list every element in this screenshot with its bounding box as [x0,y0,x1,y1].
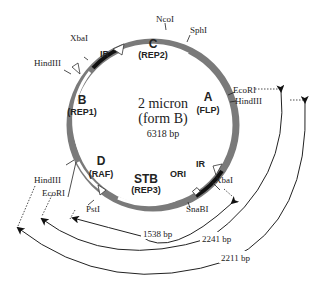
site-snabi: SnaBI [186,204,209,214]
ir-top-label: IR [100,49,110,59]
gene-c-label: C [149,37,158,51]
ir-right-label: IR [196,159,206,169]
gene-d-name: (RAF) [89,169,114,179]
gene-d-label: D [97,154,106,168]
plasmid-form: (form B) [138,111,188,127]
stb-label: STB [134,172,158,186]
stb-name: (REP3) [131,185,161,195]
site-ncoi: NcoI [156,14,174,24]
gene-b-arrowhead [72,63,80,74]
fragment-label-2241: 2241 bp [202,234,232,244]
site-xbai-top: XbaI [70,33,88,43]
gene-a-label: A [204,90,213,104]
fragment-label-2211: 2211 bp [221,253,250,263]
site-hindiii-right: HindIII [235,96,262,106]
gene-b-name: (REP1) [67,107,97,117]
gene-c-name: (REP2) [138,50,168,60]
gene-a-arrow [218,90,229,165]
site-xbai-right: XbaI [215,175,233,185]
plasmid-map: 2 micron (form B) 6318 bp C (REP2) B (RE… [0,0,328,299]
gene-a-name: (FLP) [197,105,220,115]
site-sphi: SphI [190,25,207,35]
site-hindiii-left: HindIII [34,175,61,185]
ori-label: ORI [170,169,186,179]
plasmid-name: 2 micron [138,96,188,111]
site-hindiii-top: HindIII [34,58,61,68]
fragment-label-1538: 1538 bp [143,229,173,239]
site-psti: PstI [86,204,100,214]
plasmid-size: 6318 bp [147,128,180,139]
site-ecori-left: EcoRI [42,188,65,198]
site-ecori-right: EcoRI [233,85,256,95]
gene-b-label: B [78,93,87,107]
